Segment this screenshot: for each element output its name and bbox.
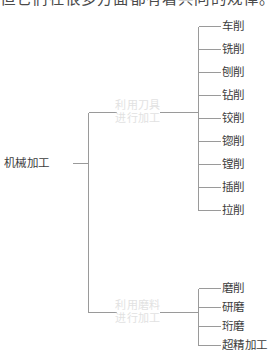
branch-label-line1: 利用刀具 xyxy=(108,100,168,113)
leaf-node: 研磨 xyxy=(222,301,245,314)
branch-label-line2: 进行加工 xyxy=(108,313,168,326)
diagram-canvas: 但它们在很多方面都有着共同的规律。 xyxy=(0,0,274,353)
leaf-node: 锪削 xyxy=(222,135,245,148)
leaf-node: 刨削 xyxy=(222,66,245,79)
leaf-node: 磨削 xyxy=(222,282,245,295)
branch-label-tool-machining: 利用刀具 进行加工 xyxy=(108,100,168,125)
leaf-node: 钻削 xyxy=(222,89,245,102)
leaf-node: 珩磨 xyxy=(222,320,245,333)
leaf-node: 铰削 xyxy=(222,112,245,125)
branch-label-line2: 进行加工 xyxy=(108,113,168,126)
leaf-node: 超精加工 xyxy=(222,339,267,352)
tree-root-label: 机械加工 xyxy=(4,157,49,170)
branch-label-abrasive-machining: 利用磨料 进行加工 xyxy=(108,300,168,325)
leaf-node: 车削 xyxy=(222,20,245,33)
leaf-node: 拉削 xyxy=(222,204,245,217)
branch-label-line1: 利用磨料 xyxy=(108,300,168,313)
leaf-node: 镗削 xyxy=(222,158,245,171)
leaf-node: 插削 xyxy=(222,181,245,194)
leaf-node: 铣削 xyxy=(222,43,245,56)
